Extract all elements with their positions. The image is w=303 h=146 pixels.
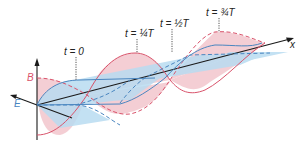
x-axis-label: x xyxy=(290,40,295,50)
e-axis-label: E xyxy=(14,99,21,109)
time-label-half: t = ½T xyxy=(160,19,189,29)
b-axis-arrowhead xyxy=(35,58,40,66)
wave-figure xyxy=(0,0,303,146)
time-label-three-quarter: t = ¾T xyxy=(206,8,235,18)
time-label-t0: t = 0 xyxy=(64,47,84,57)
b-axis-label: B xyxy=(27,73,34,83)
em-wave-diagram: B E x t = 0 t = ¼T t = ½T t = ¾T xyxy=(0,0,303,146)
time-label-quarter: t = ¼T xyxy=(125,29,154,39)
